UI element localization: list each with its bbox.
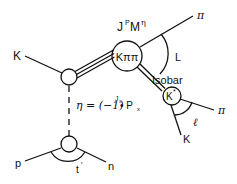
angle-l-arc [160, 34, 168, 74]
incoming-kaon-line [25, 56, 62, 73]
momentum-transfer-arc [51, 152, 85, 161]
isobar-diagram: K Kππ J P M η π L Isobar K * π K ℓ [0, 0, 237, 184]
k-star-label: K [166, 91, 173, 102]
right-pion-line [180, 99, 214, 110]
angle-l-label: L [175, 51, 181, 63]
top-pion-label: π [196, 9, 205, 22]
k-star-superscript: * [173, 88, 176, 95]
angle-small-l-label: ℓ [193, 116, 198, 129]
svg-text:• P: • P [120, 100, 133, 111]
svg-text:M: M [130, 20, 140, 34]
exchange-naturality-formula: η = (−1) J x • P x [76, 95, 140, 112]
incoming-kaon-label: K [13, 49, 21, 63]
k-pi-pi-label: Kππ [116, 51, 139, 63]
nucleon-vertex-circle [61, 136, 77, 152]
momentum-transfer-prime: ′ [81, 160, 83, 169]
svg-text:J: J [115, 95, 119, 102]
momentum-transfer-label: t [76, 164, 79, 175]
decay-kaon-label: K [183, 133, 191, 145]
triple-line-propagator [75, 50, 115, 78]
resonance-quantum-numbers: J P M η [117, 18, 146, 34]
svg-text:x: x [137, 106, 140, 112]
isobar-label: Isobar [152, 74, 183, 86]
proton-label: p [15, 157, 21, 169]
production-vertex-circle [61, 69, 77, 85]
decay-kaon-line [171, 105, 181, 135]
proton-line [25, 148, 61, 161]
svg-text:J: J [117, 20, 123, 34]
right-pion-label: π [217, 104, 226, 117]
neutron-label: n [108, 160, 114, 172]
angle-small-l-arc [175, 102, 192, 115]
svg-text:η: η [141, 18, 146, 27]
